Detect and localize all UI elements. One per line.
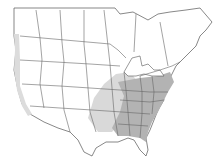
range-map	[0, 0, 222, 164]
map-svg	[0, 0, 222, 164]
eastern-core-range	[112, 72, 174, 142]
